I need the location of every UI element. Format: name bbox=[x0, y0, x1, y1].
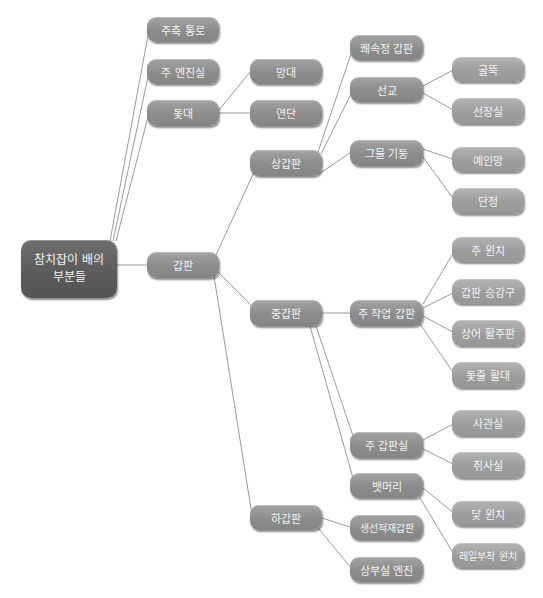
node-label: 상갑판 bbox=[271, 155, 301, 171]
node-label: 사관실 bbox=[473, 415, 503, 431]
root-node[interactable]: 참치잡이 배의 부분들 bbox=[21, 240, 117, 298]
node-net-mast[interactable]: 그물 기둥 bbox=[350, 140, 423, 166]
node-label: 닻 윈치 bbox=[471, 506, 505, 522]
node-bridge[interactable]: 선교 bbox=[350, 77, 423, 102]
node-label: 중갑판 bbox=[271, 305, 301, 321]
node-label: 주 엔진실 bbox=[161, 64, 205, 80]
node-towing-net[interactable]: 예인망 bbox=[452, 147, 524, 172]
node-main-working-deck[interactable]: 주 작업 갑판 bbox=[350, 300, 423, 326]
node-bow[interactable]: 뱃머리 bbox=[350, 473, 423, 498]
node-label: 선교 bbox=[377, 82, 397, 98]
node-label: 갑판 승강구 bbox=[461, 284, 515, 300]
node-label: 돛줄 활대 bbox=[466, 367, 510, 383]
node-galley[interactable]: 취사실 bbox=[452, 452, 524, 478]
node-label: 선장실 bbox=[473, 103, 503, 119]
node-lower-deck[interactable]: 하갑판 bbox=[250, 505, 322, 530]
node-label: 주축 통로 bbox=[161, 22, 205, 38]
node-label: 돛대 bbox=[173, 105, 193, 121]
node-speedboat-deck[interactable]: 쾌속정 갑판 bbox=[350, 35, 423, 60]
node-upper-room-engine[interactable]: 상부실 엔진 bbox=[350, 557, 423, 582]
node-label: 주 갑판실 bbox=[365, 437, 409, 453]
node-deck[interactable]: 갑판 bbox=[147, 252, 219, 278]
node-label: 예인망 bbox=[473, 152, 503, 168]
node-label: 연단 bbox=[276, 105, 296, 121]
mind-map-diagram: 참치잡이 배의 부분들 주축 통로 주 엔진실 돛대 갑판 망대 연단 상갑판 … bbox=[0, 0, 543, 598]
node-upper-deck[interactable]: 상갑판 bbox=[250, 150, 322, 176]
node-deck-hatch[interactable]: 갑판 승강구 bbox=[452, 279, 524, 304]
node-label: 그물 기둥 bbox=[365, 145, 409, 161]
node-anchor-winch[interactable]: 닻 윈치 bbox=[452, 501, 524, 526]
node-mast[interactable]: 돛대 bbox=[147, 100, 219, 126]
node-label: 갑판 bbox=[173, 257, 193, 273]
node-skiff[interactable]: 단정 bbox=[452, 188, 524, 214]
node-label: 단정 bbox=[478, 193, 498, 209]
node-crows-nest[interactable]: 망대 bbox=[250, 59, 322, 84]
node-label: 상부실 엔진 bbox=[360, 562, 414, 578]
node-boom[interactable]: 돛줄 활대 bbox=[452, 362, 524, 388]
node-officers-room[interactable]: 사관실 bbox=[452, 410, 524, 436]
node-platform[interactable]: 연단 bbox=[250, 100, 322, 126]
node-label: 하갑판 bbox=[271, 510, 301, 526]
node-shark-slide[interactable]: 상어 활주판 bbox=[452, 320, 524, 346]
node-middle-deck[interactable]: 중갑판 bbox=[250, 300, 322, 326]
node-label: 망대 bbox=[276, 64, 296, 80]
node-label: 주 윈치 bbox=[471, 242, 505, 258]
node-label: 뱃머리 bbox=[372, 478, 402, 494]
node-label: 취사실 bbox=[473, 457, 503, 473]
node-main-deckhouse[interactable]: 주 갑판실 bbox=[350, 432, 423, 458]
node-main-engine-room[interactable]: 주 엔진실 bbox=[147, 59, 219, 84]
node-main-winch[interactable]: 주 윈치 bbox=[452, 237, 524, 262]
node-label: 굴뚝 bbox=[478, 62, 498, 78]
node-fish-hold-deck[interactable]: 생선적재갑판 bbox=[350, 515, 423, 540]
node-label: 주 작업 갑판 bbox=[358, 305, 415, 321]
node-label: 상어 활주판 bbox=[461, 325, 515, 341]
node-label: 생선적재갑판 bbox=[360, 520, 414, 535]
node-rail-winch[interactable]: 레일부착 윈치 bbox=[452, 543, 524, 568]
node-label: 레일부착 윈치 bbox=[459, 548, 516, 563]
node-funnel[interactable]: 굴뚝 bbox=[452, 57, 524, 82]
root-node-label: 참치잡이 배의 부분들 bbox=[27, 252, 111, 286]
node-main-shaft-passage[interactable]: 주축 통로 bbox=[147, 17, 219, 42]
node-label: 쾌속정 갑판 bbox=[360, 40, 414, 56]
node-captains-cabin[interactable]: 선장실 bbox=[452, 98, 524, 124]
